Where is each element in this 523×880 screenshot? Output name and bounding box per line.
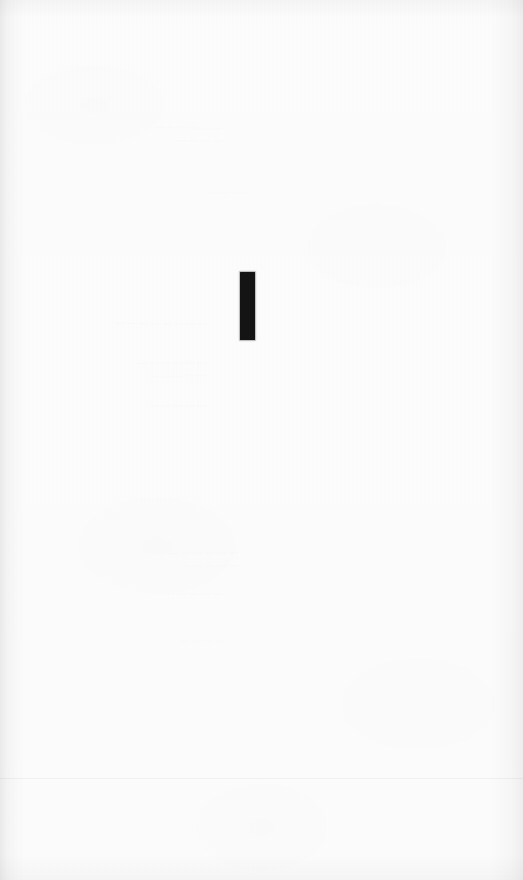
show-through-text: — — — — — [130, 186, 250, 198]
show-through-text: — — — — — — — — — — — [72, 119, 222, 147]
show-through-text: — — — — — — [76, 398, 206, 412]
page-mark-glyph — [240, 272, 255, 340]
page-edge-shading-top — [0, 0, 523, 18]
page-edge-shading-right — [489, 0, 523, 880]
show-through-text: — — — — — — — — — — — — [46, 355, 206, 382]
show-through-text: — — — — — [84, 634, 224, 648]
page-edge-shading-bottom — [0, 854, 523, 880]
show-through-text: — — — — — — — — — [42, 315, 207, 329]
page-edge-shading-left — [0, 0, 26, 880]
scan-line-artifact — [0, 778, 523, 779]
show-through-text: — — — — — — — — — — — — [78, 545, 238, 572]
show-through-text: — — — — — — [72, 585, 222, 599]
scanned-page: — — — — — — — — — —— — — —— — — — — — — … — [0, 0, 523, 880]
